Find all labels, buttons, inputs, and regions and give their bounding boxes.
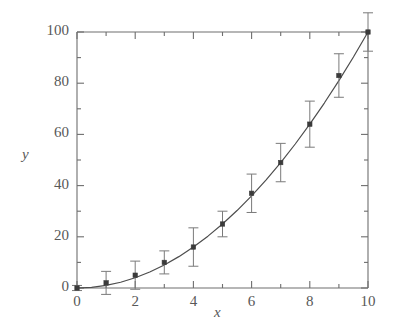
data-point-marker (279, 160, 283, 164)
y-tick-label: 0 (25, 278, 69, 295)
curve-path (77, 32, 368, 288)
data-point-marker (249, 191, 253, 195)
data-point-marker (366, 30, 370, 34)
data-point-marker (220, 222, 224, 226)
axes-frame (77, 32, 368, 288)
data-point-marker (191, 245, 195, 249)
chart-figure: 0246810020406080100 y x (0, 0, 395, 330)
y-axis-title: y (22, 146, 29, 163)
data-point-marker (162, 260, 166, 264)
data-point-marker (308, 122, 312, 126)
x-tick-label: 6 (240, 293, 264, 310)
fit-curve (77, 32, 368, 288)
y-tick-label: 20 (25, 227, 69, 244)
x-tick-label: 4 (181, 293, 205, 310)
x-axis-title: x (214, 304, 221, 321)
x-tick-label: 10 (356, 293, 380, 310)
data-point-marker (337, 73, 341, 77)
y-tick-label: 60 (25, 124, 69, 141)
y-tick-label: 40 (25, 176, 69, 193)
data-point-marker (133, 273, 137, 277)
y-tick-label: 100 (25, 22, 69, 39)
error-bars (72, 13, 373, 295)
data-point-marker (104, 281, 108, 285)
x-tick-label: 2 (123, 293, 147, 310)
data-point-marker (75, 286, 79, 290)
data-markers (75, 30, 370, 290)
x-tick-label: 0 (65, 293, 89, 310)
y-tick-label: 80 (25, 73, 69, 90)
axis-ticks (77, 32, 368, 288)
x-tick-label: 8 (298, 293, 322, 310)
